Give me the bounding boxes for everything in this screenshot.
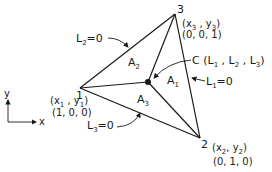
area-a1-label: A1 — [167, 74, 179, 89]
svg-text:(0, 1, 0): (0, 1, 0) — [213, 156, 253, 167]
svg-text:L3=0: L3=0 — [87, 119, 114, 134]
area-a3-label: A3 — [137, 93, 149, 108]
coordinate-axes: y x — [4, 88, 45, 127]
y-axis-label: y — [4, 88, 10, 99]
svg-text:(1, 0, 0): (1, 0, 0) — [52, 107, 92, 118]
svg-text:2: 2 — [201, 138, 208, 151]
line-c-1 — [80, 82, 148, 88]
point-c — [145, 79, 151, 85]
vertex-3-label: 3 (x3 , y3) (0, 0, 1) — [177, 3, 222, 40]
arrow-l2 — [108, 38, 128, 47]
edge-label-l2: L2=0 — [76, 32, 128, 47]
edge-label-l1: L1=0 — [192, 75, 233, 90]
svg-text:L2=0: L2=0 — [76, 32, 103, 47]
x-axis-label: x — [39, 116, 45, 127]
svg-text:C (L1 , L2 , L3): C (L1 , L2 , L3) — [192, 54, 265, 69]
arrow-l3 — [117, 113, 140, 127]
area-coordinates-diagram: 3 (x3 , y3) (0, 0, 1) 1 (x1 , y1) (1, 0,… — [0, 0, 272, 172]
area-a2-label: A2 — [128, 56, 140, 71]
svg-text:(x2, y2): (x2, y2) — [212, 142, 247, 156]
edge-label-l3: L3=0 — [87, 113, 140, 134]
svg-text:3: 3 — [177, 3, 184, 16]
vertex-2-label: 2 (x2, y2) (0, 1, 0) — [201, 138, 253, 167]
arrow-l1 — [192, 78, 205, 81]
vertex-1-label: 1 (x1 , y1) (1, 0, 0) — [50, 89, 92, 118]
svg-text:(0, 0, 1): (0, 0, 1) — [182, 29, 222, 40]
svg-text:L1=0: L1=0 — [206, 75, 233, 90]
line-c-2 — [148, 82, 200, 138]
